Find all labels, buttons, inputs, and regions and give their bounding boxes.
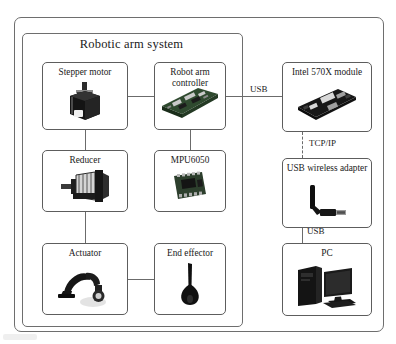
scan-artifact [3,334,37,340]
block-label-pc: PC [283,248,371,259]
reducer-gearbox-icon [43,167,127,207]
stepper-motor-icon [43,80,127,126]
connection-label-usb-top: USB [250,84,268,94]
block-label-end-effector: End effector [155,248,225,259]
block-label-intel-570x-module: Intel 570X module [283,67,371,78]
connector-intel-to-adapter-dashed [302,132,303,158]
block-label-stepper-motor: Stepper motor [43,67,127,78]
block-label-reducer: Reducer [43,155,127,166]
page-title: Robotic arm system [22,37,241,52]
block-reducer[interactable]: Reducer [42,150,128,212]
block-pc[interactable]: PC [282,243,372,316]
connector-stepper-to-reducer [85,130,86,150]
robot-arm-icon [43,261,127,311]
connector-stepper-to-controller [128,96,154,97]
wifi-dongle-icon [283,183,371,223]
imu-chip-icon [155,168,225,206]
block-end-effector[interactable]: End effector [154,243,226,315]
block-label-usb-wireless-adapter: USB wireless adapter [283,163,371,174]
controller-board-icon [155,84,225,124]
block-robot-arm-controller[interactable]: Robot arm controller [154,62,226,130]
connector-reducer-to-actuator [85,212,86,243]
connection-label-tcpip: TCP/IP [309,138,336,148]
desktop-computer-icon [283,260,371,312]
block-usb-wireless-adapter[interactable]: USB wireless adapter [282,158,372,228]
connector-adapter-to-pc [302,228,303,243]
diagram-canvas: Robotic arm system USB TCP/IP USB Steppe… [0,0,396,344]
block-label-mpu6050: MPU6050 [155,155,225,166]
intel-board-icon [283,85,371,127]
end-effector-icon [155,261,225,311]
connector-controller-to-mpu6050 [190,130,191,150]
block-mpu6050[interactable]: MPU6050 [154,150,226,212]
block-intel-570x-module[interactable]: Intel 570X module [282,62,372,132]
connector-actuator-to-end-effector [128,279,154,280]
connector-controller-to-intel-module [226,96,282,97]
block-actuator[interactable]: Actuator [42,243,128,315]
block-label-actuator: Actuator [43,248,127,259]
block-stepper-motor[interactable]: Stepper motor [42,62,128,130]
